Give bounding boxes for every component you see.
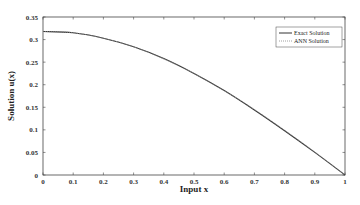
plot-area — [43, 31, 345, 175]
x-axis-label: Input x — [180, 184, 209, 194]
x-tick-label: 0.6 — [220, 178, 229, 186]
exact-solution-line — [43, 31, 345, 175]
x-tick-label: 0.8 — [280, 178, 289, 186]
x-tick-label: 0.7 — [250, 178, 259, 186]
x-tick-label: 0 — [41, 178, 45, 186]
y-tick-label: 0.25 — [26, 59, 39, 67]
legend: Exact Solution ANN Solution — [276, 27, 342, 47]
legend-exact-label: Exact Solution — [294, 30, 330, 36]
line-chart: 00.10.20.30.40.50.60.70.80.9100.050.10.1… — [0, 0, 360, 205]
y-tick-label: 0 — [35, 172, 39, 180]
legend-ann-label: ANN Solution — [294, 38, 329, 44]
x-tick-label: 0.4 — [159, 178, 168, 186]
y-tick-label: 0.1 — [29, 126, 38, 134]
x-tick-label: 0.3 — [129, 178, 138, 186]
ann-solution-line — [43, 31, 345, 175]
x-tick-label: 1 — [343, 178, 347, 186]
y-tick-label: 0.35 — [26, 14, 39, 22]
y-axis-label: Solution u(x) — [6, 71, 16, 121]
x-tick-label: 0.1 — [69, 178, 78, 186]
y-tick-label: 0.05 — [26, 149, 39, 157]
x-tick-label: 0.2 — [99, 178, 108, 186]
y-tick-label: 0.2 — [29, 81, 38, 89]
y-tick-label: 0.3 — [29, 36, 38, 44]
x-tick-label: 0.9 — [310, 178, 319, 186]
y-tick-label: 0.15 — [26, 104, 39, 112]
